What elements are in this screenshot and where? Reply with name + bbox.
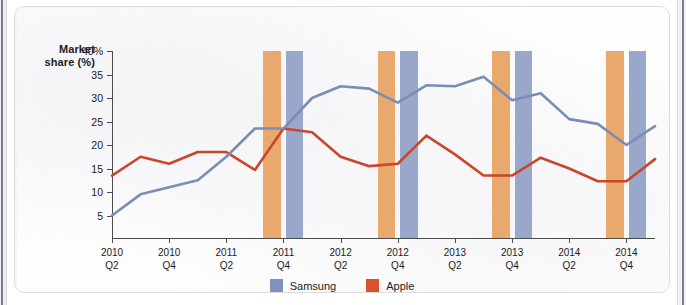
- x-axis-tick-year: 2012: [387, 247, 409, 260]
- legend-swatch-samsung-icon: [270, 279, 283, 292]
- x-axis-tick-year: 2013: [501, 247, 523, 260]
- x-axis-tick-quarter: Q4: [615, 260, 637, 273]
- y-axis-tick-label: 35: [91, 69, 103, 81]
- y-axis-tick-label: 5: [97, 210, 103, 222]
- x-axis-tick-year: 2014: [558, 247, 580, 260]
- x-axis-tick: [455, 239, 456, 243]
- x-axis-tick-year: 2010: [101, 247, 123, 260]
- legend-item-samsung: Samsung: [270, 279, 336, 292]
- series-lines: [112, 51, 655, 239]
- x-axis-tick-year: 2014: [615, 247, 637, 260]
- x-axis-tick-year: 2013: [444, 247, 466, 260]
- plot-area: 40%3530252015105 2010Q22010Q42011Q22011Q…: [112, 51, 655, 239]
- x-axis-tick-label: 2013Q2: [444, 247, 466, 272]
- legend-label-samsung: Samsung: [290, 280, 336, 292]
- y-axis-tick-label: 40%: [82, 45, 103, 57]
- x-axis-tick-label: 2014Q2: [558, 247, 580, 272]
- x-axis-tick-quarter: Q4: [387, 260, 409, 273]
- x-axis-tick-quarter: Q4: [501, 260, 523, 273]
- x-axis-tick: [569, 239, 570, 243]
- legend-label-apple: Apple: [386, 280, 414, 292]
- x-axis-tick-year: 2011: [273, 247, 295, 260]
- x-axis-tick-label: 2010Q2: [101, 247, 123, 272]
- x-axis-tick-label: 2011Q2: [216, 247, 238, 272]
- x-axis-tick-label: 2013Q4: [501, 247, 523, 272]
- x-axis-tick: [112, 239, 113, 243]
- x-axis-tick-label: 2012Q2: [330, 247, 352, 272]
- legend-item-apple: Apple: [366, 279, 414, 292]
- page-right-binding: [682, 0, 684, 305]
- x-axis-tick: [626, 239, 627, 243]
- x-axis-tick-label: 2012Q4: [387, 247, 409, 272]
- x-axis-tick-year: 2011: [216, 247, 238, 260]
- x-axis-tick-label: 2010Q4: [158, 247, 180, 272]
- x-axis-tick-quarter: Q2: [216, 260, 238, 273]
- plot-inner: 40%3530252015105: [112, 51, 655, 239]
- x-axis-tick-quarter: Q2: [101, 260, 123, 273]
- chart-panel: Market share (%) 40%3530252015105 2010Q2…: [14, 6, 670, 293]
- page-root: Market share (%) 40%3530252015105 2010Q2…: [0, 0, 686, 305]
- line-apple: [112, 129, 655, 182]
- x-axis-tick: [283, 239, 284, 243]
- y-axis-title-line2: share (%): [33, 56, 95, 69]
- x-axis-tick-quarter: Q2: [330, 260, 352, 273]
- x-axis-tick-quarter: Q2: [558, 260, 580, 273]
- x-axis-tick-quarter: Q4: [158, 260, 180, 273]
- x-axis-tick: [169, 239, 170, 243]
- x-axis-tick-quarter: Q4: [273, 260, 295, 273]
- x-axis-tick-label: 2014Q4: [615, 247, 637, 272]
- x-axis-tick-year: 2012: [330, 247, 352, 260]
- x-axis-tick: [226, 239, 227, 243]
- y-axis-tick-label: 25: [91, 116, 103, 128]
- x-axis-tick-label: 2011Q4: [273, 247, 295, 272]
- y-axis-tick-label: 15: [91, 163, 103, 175]
- y-axis-tick-label: 20: [91, 139, 103, 151]
- x-axis-tick-quarter: Q2: [444, 260, 466, 273]
- page-left-binding: [1, 0, 3, 305]
- line-samsung: [112, 77, 655, 216]
- y-axis-tick-label: 10: [91, 186, 103, 198]
- x-axis-tick: [512, 239, 513, 243]
- x-axis-tick: [398, 239, 399, 243]
- chart-legend: Samsung Apple: [15, 279, 669, 292]
- x-axis-tick-year: 2010: [158, 247, 180, 260]
- x-axis-tick: [341, 239, 342, 243]
- y-axis-tick-label: 30: [91, 92, 103, 104]
- legend-swatch-apple-icon: [366, 279, 379, 292]
